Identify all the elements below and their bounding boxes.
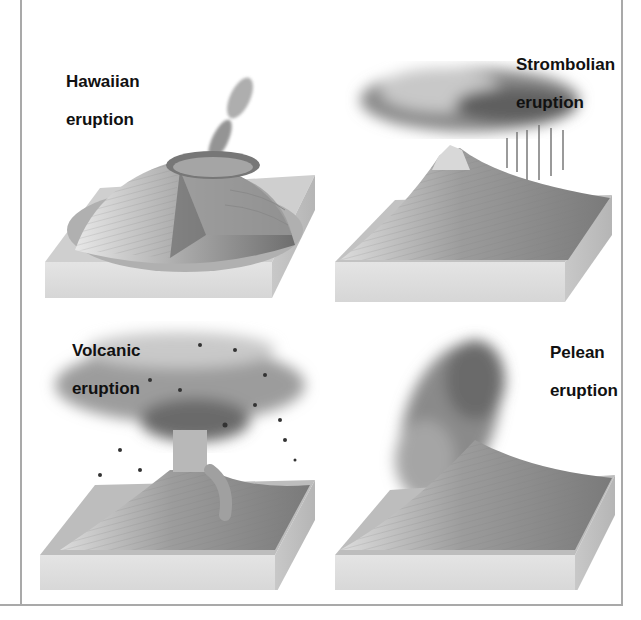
panel-volcanic: Volcanic eruption [30, 310, 320, 590]
frame-left-border [20, 0, 22, 606]
label-pelean-line1: Pelean [550, 343, 605, 362]
frame-bottom-border [0, 604, 623, 606]
label-hawaiian-line1: Hawaiian [66, 72, 140, 91]
label-hawaiian-line2: eruption [66, 110, 134, 129]
label-hawaiian: Hawaiian eruption [47, 53, 140, 148]
panel-pelean: Pelean eruption [330, 310, 620, 590]
frame-right-border [621, 0, 623, 606]
label-pelean: Pelean eruption [531, 324, 618, 419]
panel-strombolian: Strombolian eruption [330, 20, 620, 305]
label-strombolian-line1: Strombolian [516, 55, 615, 74]
label-strombolian: Strombolian eruption [497, 36, 615, 131]
label-pelean-line2: eruption [550, 381, 618, 400]
label-volcanic-line1: Volcanic [72, 341, 141, 360]
label-strombolian-line2: eruption [516, 93, 584, 112]
label-volcanic-line2: eruption [72, 379, 140, 398]
panel-hawaiian: Hawaiian eruption [30, 40, 320, 305]
label-volcanic: Volcanic eruption [53, 322, 141, 417]
